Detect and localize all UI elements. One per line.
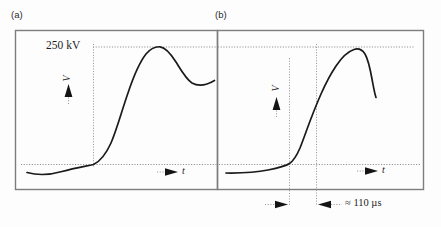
duration-left-arrowhead xyxy=(275,201,288,209)
panel-a-waveform-curve xyxy=(27,47,215,175)
panel-b-duration-label: ≈ 110 µs xyxy=(345,197,382,208)
duration-right-arrowhead xyxy=(318,201,331,209)
panel-b-frame xyxy=(218,31,424,190)
panel-b-border xyxy=(218,31,424,190)
figure-root: (a) (b) 250 kV ≈ 110 µs V V t t xyxy=(0,0,441,227)
panel-label-b: (b) xyxy=(215,9,227,20)
figure-canvas xyxy=(0,0,441,227)
panel-b-t-axis-arrow xyxy=(357,167,378,175)
panel-label-a: (a) xyxy=(11,9,23,20)
panel-b-duration-annotation xyxy=(265,201,342,209)
panel-a-frame xyxy=(16,31,218,190)
panel-a-y-axis-label: V xyxy=(61,75,72,81)
panel-b-x-axis-label: t xyxy=(382,164,385,175)
panel-a-threshold-label: 250 kV xyxy=(46,39,80,51)
panel-b-waveform-curve xyxy=(226,49,376,173)
panel-a-x-axis-label: t xyxy=(182,165,185,176)
panel-b-v-axis-arrow xyxy=(273,97,281,117)
panel-a-t-axis-arrow xyxy=(157,168,178,176)
panel-a-border xyxy=(16,31,218,190)
panel-b-y-axis-label: V xyxy=(270,85,281,91)
panel-a-v-axis-arrow xyxy=(65,84,73,104)
